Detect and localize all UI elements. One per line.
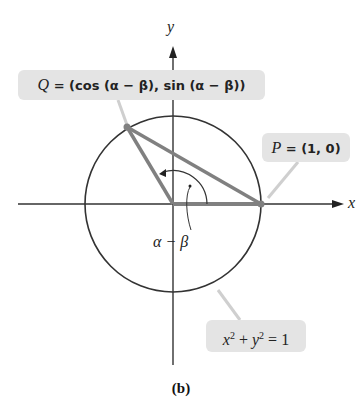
segment-qp bbox=[127, 127, 261, 204]
point-p bbox=[258, 201, 265, 208]
q-leader-line bbox=[118, 100, 127, 125]
angle-label: α − β bbox=[153, 233, 188, 251]
point-p-coords: = (1, 0) bbox=[281, 141, 340, 156]
unit-circle-diagram bbox=[0, 0, 362, 400]
y-axis-arrow-icon bbox=[169, 46, 177, 58]
x-axis-label: x bbox=[348, 194, 355, 212]
point-p-name: P bbox=[271, 139, 281, 156]
point-q bbox=[124, 124, 131, 131]
point-q-name: Q bbox=[38, 76, 50, 93]
circle-equation-label: x2 + y2 = 1 bbox=[206, 320, 306, 352]
y-axis-label: y bbox=[167, 18, 174, 36]
figure-caption: (b) bbox=[0, 380, 362, 397]
angle-arrow-icon bbox=[159, 169, 166, 177]
eq-rhs: = 1 bbox=[264, 331, 289, 348]
p-leader-line bbox=[268, 162, 298, 198]
eq-x: x bbox=[223, 331, 230, 348]
eq-leader-line bbox=[218, 290, 240, 320]
angle-pointer-dot bbox=[189, 185, 192, 188]
eq-plus: + bbox=[235, 331, 252, 348]
angle-pointer bbox=[187, 187, 191, 230]
point-p-label: P = (1, 0) bbox=[262, 133, 350, 162]
point-q-coords: = (cos (α − β), sin (α − β)) bbox=[49, 78, 245, 93]
point-q-label: Q = (cos (α − β), sin (α − β)) bbox=[18, 70, 265, 100]
x-axis-arrow-icon bbox=[332, 200, 344, 208]
